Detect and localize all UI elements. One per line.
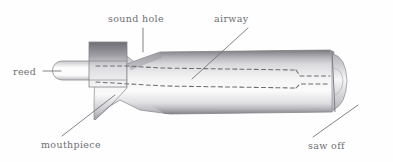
saw-off-end-cap: [332, 51, 347, 112]
label-mouthpiece: mouthpiece: [41, 140, 101, 150]
label-saw-off: saw off: [308, 141, 345, 151]
mouthpiece-leader-line: [62, 95, 115, 136]
label-airway: airway: [214, 14, 249, 24]
label-reed: reed: [13, 67, 36, 77]
label-sound-hole: sound hole: [108, 14, 164, 24]
instrument-diagram-figure: sound hole airway reed mouthpiece saw of…: [0, 0, 393, 162]
drawing-canvas: [0, 0, 393, 162]
